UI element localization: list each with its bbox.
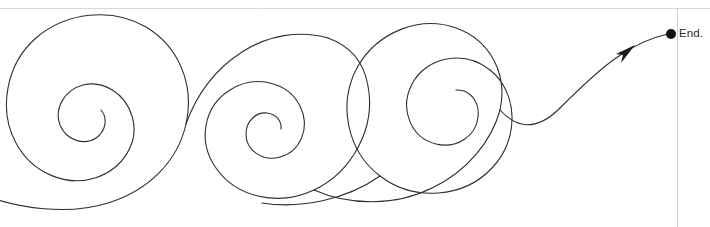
end-label: End. <box>679 26 703 40</box>
spiral-2-path <box>205 38 369 198</box>
end-point-dot <box>666 29 676 39</box>
connector-1-path <box>186 34 328 124</box>
bottom-right-arc <box>262 176 380 205</box>
connector-2-path <box>314 110 500 202</box>
arrow-head <box>616 45 635 63</box>
illustration-canvas: End. <box>0 0 710 227</box>
spiral-3-path <box>347 24 512 194</box>
spiral-1-path <box>0 15 188 210</box>
final-tail-path <box>560 34 668 108</box>
spiral-path-group <box>0 15 668 210</box>
spiral-path-illustration <box>0 0 710 227</box>
spiral-3-outer-sweep <box>500 108 560 125</box>
